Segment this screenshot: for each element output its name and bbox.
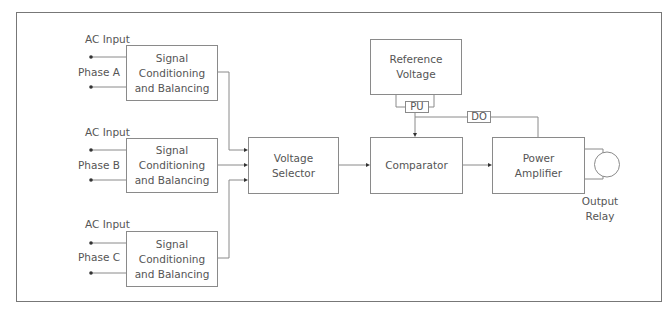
- terminal-a2-icon: [89, 85, 93, 89]
- terminal-b1-icon: [89, 148, 93, 152]
- power-amplifier-block: Power Amplifier: [492, 137, 585, 194]
- phase-a-label: Phase A: [78, 65, 120, 79]
- terminal-b2-icon: [89, 178, 93, 182]
- signal-conditioning-block-b: Signal Conditioning and Balancing: [126, 138, 218, 193]
- phase-b-label: Phase B: [78, 158, 120, 172]
- output-relay-label: Output Relay: [576, 194, 624, 224]
- voltage-selector-block: Voltage Selector: [248, 137, 339, 194]
- output-relay-coil-icon: [595, 152, 620, 177]
- comparator-block: Comparator: [370, 137, 463, 194]
- terminal-c1-icon: [89, 241, 93, 245]
- ac-input-label-b: AC Input: [85, 125, 130, 139]
- relay-block-diagram: AC Input Phase A Signal Conditioning and…: [0, 0, 671, 314]
- do-label: DO: [467, 111, 491, 123]
- phase-c-label: Phase C: [78, 250, 120, 264]
- ac-input-label-c: AC Input: [85, 217, 130, 231]
- terminal-c2-icon: [89, 271, 93, 275]
- signal-conditioning-block-a: Signal Conditioning and Balancing: [126, 45, 218, 101]
- reference-voltage-block: Reference Voltage: [370, 39, 462, 95]
- pu-label: PU: [405, 101, 429, 113]
- signal-conditioning-block-c: Signal Conditioning and Balancing: [126, 231, 218, 287]
- ac-input-label-a: AC Input: [85, 32, 130, 46]
- terminal-a1-icon: [89, 55, 93, 59]
